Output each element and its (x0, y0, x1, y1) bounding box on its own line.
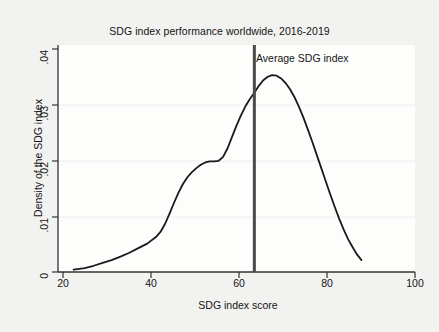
y-tick-label-0.03: .03 (38, 106, 50, 146)
y-tick-label-0.02: .02 (38, 162, 50, 202)
average-sdg-index-annotation-label: Average SDG index (256, 52, 349, 64)
plot-background (58, 45, 415, 272)
x-tick-label-80: 80 (307, 277, 347, 289)
y-axis-ticks (52, 49, 58, 272)
chart-figure: SDG index performance worldwide, 2016-20… (0, 0, 439, 332)
x-axis-title: SDG index score (58, 299, 418, 311)
y-tick-label-0.01: .01 (38, 218, 50, 258)
x-tick-label-100: 100 (395, 277, 435, 289)
chart-title: SDG index performance worldwide, 2016-20… (0, 25, 439, 37)
y-tick-label-0: 0 (38, 273, 50, 313)
x-tick-label-40: 40 (131, 277, 171, 289)
x-tick-label-60: 60 (219, 277, 259, 289)
y-tick-label-0.04: .04 (38, 50, 50, 90)
